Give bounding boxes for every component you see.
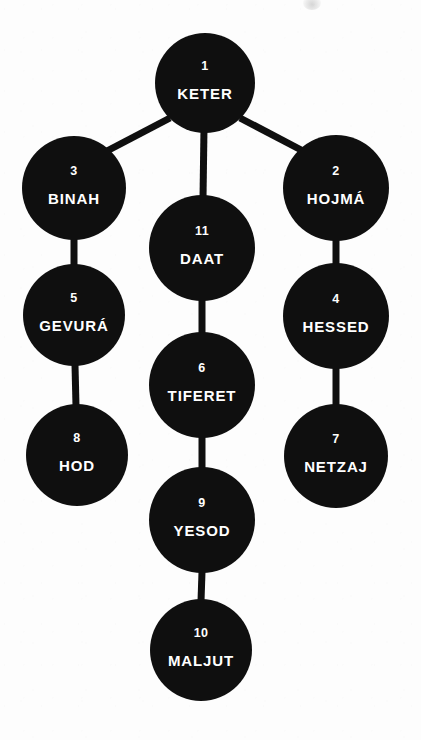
node-label-hojma: HOJMÁ	[307, 190, 366, 207]
node-circle-tiferet[interactable]	[149, 332, 255, 438]
node-netzaj[interactable]: 7NETZAJ	[284, 404, 388, 508]
node-circle-hod[interactable]	[26, 404, 128, 506]
edge-keter-to-hojma	[240, 118, 305, 152]
node-number-hessed: 4	[332, 292, 339, 306]
node-circle-hojma[interactable]	[283, 135, 389, 241]
node-number-hojma: 2	[332, 164, 339, 178]
node-label-binah: BINAH	[48, 190, 100, 207]
node-number-daat: 11	[195, 224, 209, 238]
node-number-keter: 1	[201, 59, 208, 73]
node-number-maljut: 10	[194, 626, 209, 640]
node-circle-maljut[interactable]	[150, 599, 252, 701]
node-yesod[interactable]: 9YESOD	[149, 467, 255, 573]
node-label-keter: KETER	[177, 85, 232, 102]
edge-gevura-to-hod	[75, 365, 76, 406]
tree-graph: 1KETER3BINAH2HOJMÁ11DAAT5GEVURÁ4HESSED6T…	[0, 0, 421, 740]
node-hessed[interactable]: 4HESSED	[283, 263, 389, 369]
node-circle-hessed[interactable]	[283, 263, 389, 369]
node-keter[interactable]: 1KETER	[155, 33, 255, 133]
node-number-tiferet: 6	[198, 361, 205, 375]
node-label-hod: HOD	[59, 457, 95, 474]
node-label-gevura: GEVURÁ	[39, 317, 109, 334]
edge-keter-to-daat	[203, 128, 204, 198]
node-circle-binah[interactable]	[22, 136, 126, 240]
node-circle-gevura[interactable]	[23, 264, 125, 366]
node-number-gevura: 5	[70, 291, 77, 305]
node-circle-yesod[interactable]	[149, 467, 255, 573]
node-gevura[interactable]: 5GEVURÁ	[23, 264, 125, 366]
node-daat[interactable]: 11DAAT	[149, 195, 255, 301]
tree-of-life-diagram: 1KETER3BINAH2HOJMÁ11DAAT5GEVURÁ4HESSED6T…	[0, 0, 421, 740]
node-number-netzaj: 7	[332, 432, 339, 446]
node-circle-daat[interactable]	[149, 195, 255, 301]
edge-keter-to-binah	[105, 118, 170, 152]
node-label-tiferet: TIFERET	[168, 387, 237, 404]
edge-yesod-to-maljut	[201, 572, 202, 601]
node-number-binah: 3	[70, 164, 77, 178]
node-maljut[interactable]: 10MALJUT	[150, 599, 252, 701]
node-label-hessed: HESSED	[302, 318, 369, 335]
node-label-netzaj: NETZAJ	[304, 458, 368, 475]
node-label-yesod: YESOD	[173, 522, 230, 539]
node-label-daat: DAAT	[180, 250, 224, 267]
node-number-hod: 8	[73, 431, 80, 445]
node-tiferet[interactable]: 6TIFERET	[149, 332, 255, 438]
node-label-maljut: MALJUT	[168, 652, 234, 669]
node-binah[interactable]: 3BINAH	[22, 136, 126, 240]
node-circle-netzaj[interactable]	[284, 404, 388, 508]
node-number-yesod: 9	[198, 496, 205, 510]
node-hod[interactable]: 8HOD	[26, 404, 128, 506]
node-circle-keter[interactable]	[155, 33, 255, 133]
node-hojma[interactable]: 2HOJMÁ	[283, 135, 389, 241]
